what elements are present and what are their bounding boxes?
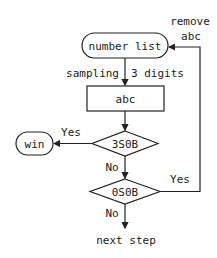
flowchart: number list sampling 3 digits abc 3S0B Y… [0, 0, 217, 258]
node-abc-label: abc [116, 93, 136, 106]
node-abc: abc [87, 86, 164, 111]
edge-label-remove: remove [170, 15, 210, 28]
edge-label-sampling: sampling [66, 67, 119, 80]
node-number-list-label: number list [89, 40, 162, 53]
edge-label-3-digits: 3 digits [131, 67, 184, 80]
node-next-step: next step [96, 234, 156, 247]
edge-label-remove-abc: abc [181, 30, 201, 43]
node-win-label: win [25, 138, 45, 151]
node-3s0b-label: 3S0B [112, 138, 139, 151]
edge-label-3s0b-no: No [105, 161, 118, 174]
node-win: win [16, 132, 53, 155]
node-3s0b-decision: 3S0B [92, 131, 158, 156]
edge-label-0s0b-no: No [105, 207, 118, 220]
node-0s0b-label: 0S0B [112, 186, 139, 199]
node-number-list: number list [82, 33, 168, 58]
node-0s0b-decision: 0S0B [90, 179, 160, 204]
edge-label-3s0b-yes: Yes [61, 126, 81, 139]
edge-label-0s0b-yes: Yes [170, 173, 190, 186]
